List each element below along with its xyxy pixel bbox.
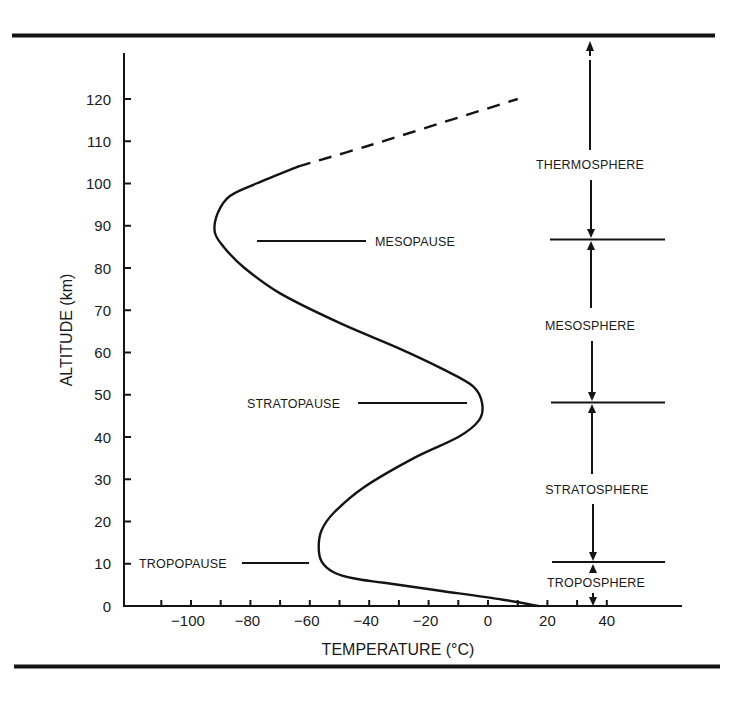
- temperature-curve-dashed: [298, 99, 518, 167]
- troposphere-label: TROPOSPHERE: [547, 576, 645, 590]
- y-tick-label: 0: [103, 598, 111, 615]
- temperature-curve-solid: [214, 167, 538, 606]
- y-axis-title: ALTITUDE (km): [58, 274, 75, 387]
- x-tick-group: −100−80−60−40−2002040: [161, 600, 615, 629]
- y-tick-label: 10: [94, 555, 111, 572]
- y-tick-label: 80: [94, 260, 111, 277]
- x-axis-title: TEMPERATURE (°C): [322, 641, 475, 658]
- atmosphere-temperature-chart: 0102030405060708090100110120 −100−80−60−…: [0, 0, 751, 701]
- y-tick-label: 90: [94, 217, 111, 234]
- mesopause-label: MESOPAUSE: [375, 235, 455, 249]
- stratopause-label: STRATOPAUSE: [247, 397, 340, 411]
- x-tick-label: −40: [353, 612, 378, 629]
- arrow-down-icon: [588, 392, 596, 401]
- stratopause-annotation: STRATOPAUSE: [247, 397, 467, 411]
- x-tick-label: 40: [598, 612, 615, 629]
- y-tick-label: 120: [86, 91, 111, 108]
- mesosphere-span: MESOSPHERE: [545, 241, 635, 401]
- arrow-up-icon: [588, 404, 596, 413]
- tropopause-label: TROPOPAUSE: [139, 557, 227, 571]
- x-tick-label: −60: [294, 612, 319, 629]
- x-tick-label: −100: [171, 612, 205, 629]
- arrow-down-icon: [587, 229, 595, 238]
- stratosphere-label: STRATOSPHERE: [545, 483, 648, 497]
- y-tick-label: 110: [87, 133, 111, 150]
- arrow-down-icon: [589, 597, 597, 606]
- y-tick-label: 100: [86, 175, 111, 192]
- x-tick-label: −20: [413, 612, 438, 629]
- arrow-down-icon: [589, 552, 597, 561]
- arrow-up-icon: [589, 564, 597, 573]
- x-tick-label: −80: [235, 612, 260, 629]
- mesopause-annotation: MESOPAUSE: [257, 235, 455, 249]
- thermosphere-span: THERMOSPHERE: [536, 41, 644, 238]
- mesosphere-label: MESOSPHERE: [545, 319, 635, 333]
- stratosphere-span: STRATOSPHERE: [545, 404, 648, 561]
- y-tick-label: 30: [94, 471, 111, 488]
- troposphere-span: TROPOSPHERE: [547, 564, 645, 606]
- tropopause-annotation: TROPOPAUSE: [139, 557, 309, 571]
- thermosphere-label: THERMOSPHERE: [536, 158, 644, 172]
- y-tick-label: 70: [94, 302, 111, 319]
- y-tick-label: 50: [94, 386, 111, 403]
- arrow-up-icon: [586, 41, 594, 51]
- y-tick-label: 40: [94, 429, 111, 446]
- arrow-up-icon: [587, 241, 595, 250]
- y-tick-label: 60: [94, 344, 111, 361]
- x-tick-label: 0: [484, 612, 492, 629]
- y-tick-label: 20: [94, 513, 111, 530]
- x-tick-label: 20: [539, 612, 556, 629]
- layer-boundaries: [550, 240, 665, 563]
